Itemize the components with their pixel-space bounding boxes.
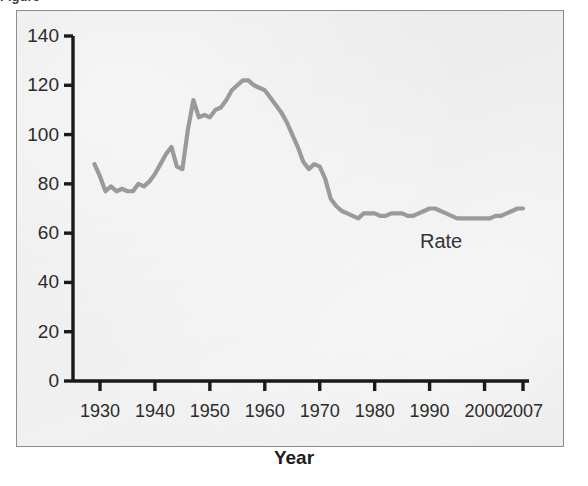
y-axis-tick-label: 140 bbox=[0, 25, 59, 47]
series-inline-label: Rate bbox=[420, 230, 462, 253]
series-group bbox=[95, 80, 524, 218]
axis-group bbox=[64, 36, 529, 391]
y-axis-tick-label: 80 bbox=[0, 173, 59, 195]
y-axis-tick-label: 0 bbox=[0, 370, 59, 392]
x-axis-tick-label: 1970 bbox=[300, 401, 340, 422]
y-axis-tick-label: 40 bbox=[0, 271, 59, 293]
y-axis-tick-label: 60 bbox=[0, 222, 59, 244]
x-axis-title: Year bbox=[0, 447, 588, 469]
x-axis-tick-label: 1930 bbox=[80, 401, 120, 422]
x-axis-tick-label: 2000 bbox=[465, 401, 505, 422]
y-axis-tick-label: 100 bbox=[0, 124, 59, 146]
y-axis-tick-label: 20 bbox=[0, 321, 59, 343]
x-axis-tick-label: 1950 bbox=[190, 401, 230, 422]
x-axis-tick-label: 1960 bbox=[245, 401, 285, 422]
x-axis-tick-label: 1980 bbox=[355, 401, 395, 422]
x-axis-tick-label: 1940 bbox=[135, 401, 175, 422]
data-line-rate bbox=[95, 80, 524, 218]
line-chart-figure: 140120100806040200 193019401950196019701… bbox=[0, 0, 588, 486]
x-axis-tick-label: 2007 bbox=[503, 401, 543, 422]
y-axis-tick-label: 120 bbox=[0, 74, 59, 96]
x-axis-tick-label: 1990 bbox=[410, 401, 450, 422]
